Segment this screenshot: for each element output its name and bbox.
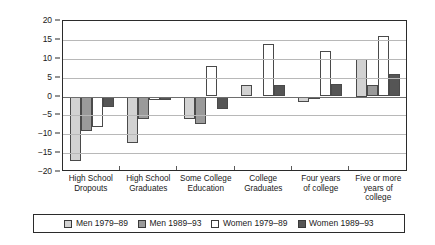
bar-men-1989-93 bbox=[81, 97, 92, 132]
bar-women-1979-89 bbox=[92, 97, 103, 128]
x-axis-category-labels: High School DropoutsHigh School Graduate… bbox=[62, 174, 407, 208]
bar-group bbox=[120, 21, 177, 170]
legend-item-label: Men 1989–93 bbox=[149, 219, 201, 228]
bar-group-bars bbox=[235, 21, 292, 170]
y-axis-tick-mark bbox=[55, 57, 60, 58]
zero-line bbox=[63, 97, 406, 98]
x-axis-category-label: Four years of college bbox=[292, 174, 350, 208]
bar-men-1979-89 bbox=[127, 97, 138, 143]
bar-men-1989-93 bbox=[367, 85, 378, 96]
bar-group bbox=[292, 21, 349, 170]
gridline bbox=[63, 59, 406, 60]
y-axis-tick-label: 0 bbox=[47, 91, 52, 100]
bar-groups bbox=[63, 21, 406, 170]
y-axis-tick-mark bbox=[55, 171, 60, 172]
y-axis-tick-label: −15 bbox=[38, 148, 52, 157]
y-axis-tick-mark bbox=[55, 114, 60, 115]
bar-group bbox=[63, 21, 120, 170]
bar-group-bars bbox=[177, 21, 234, 170]
bar-women-1979-89 bbox=[378, 36, 389, 96]
y-axis-tick-mark bbox=[55, 133, 60, 134]
y-axis-tick-label: 20 bbox=[43, 16, 52, 25]
bar-group bbox=[177, 21, 234, 170]
men-1989-93-swatch bbox=[138, 220, 146, 228]
x-axis-category-label: High School Dropouts bbox=[62, 174, 120, 208]
y-axis-tick-mark bbox=[55, 38, 60, 39]
y-axis-tick-mark bbox=[55, 20, 60, 21]
bar-women-1979-89 bbox=[206, 66, 217, 96]
legend-item[interactable]: Women 1989–93 bbox=[298, 219, 374, 228]
y-axis-tick-label: 5 bbox=[47, 72, 52, 81]
gridline bbox=[63, 134, 406, 135]
bar-men-1979-89 bbox=[70, 97, 81, 162]
bar-group-bars bbox=[349, 21, 406, 170]
x-axis-category-label: Five or more years of college bbox=[350, 174, 408, 208]
y-axis: 20151050−5−10−15−20 bbox=[0, 20, 62, 171]
chart-legend: Men 1979–89Men 1989–93Women 1979–89Women… bbox=[33, 214, 405, 233]
gridline bbox=[63, 153, 406, 154]
women-1979-89-swatch bbox=[211, 220, 219, 228]
bar-women-1989-93 bbox=[331, 84, 342, 96]
bar-group-bars bbox=[292, 21, 349, 170]
legend-item[interactable]: Men 1979–89 bbox=[64, 219, 128, 228]
legend-item-label: Women 1989–93 bbox=[309, 219, 374, 228]
x-axis-category-label: High School Graduates bbox=[120, 174, 178, 208]
y-axis-tick-label: −5 bbox=[43, 110, 53, 119]
bar-group-bars bbox=[63, 21, 120, 170]
x-axis-category-label: College Graduates bbox=[235, 174, 293, 208]
bar-men-1989-93 bbox=[195, 97, 206, 125]
bar-women-1989-93 bbox=[103, 97, 114, 108]
men-1979-89-swatch bbox=[64, 220, 72, 228]
bar-group bbox=[235, 21, 292, 170]
y-axis-tick-label: 15 bbox=[43, 35, 52, 44]
x-axis-category-label: Some College Education bbox=[177, 174, 235, 208]
bar-group bbox=[349, 21, 406, 170]
y-axis-tick-mark bbox=[55, 76, 60, 77]
y-axis-tick-mark bbox=[55, 95, 60, 96]
legend-item-label: Women 1979–89 bbox=[223, 219, 288, 228]
gridline bbox=[63, 40, 406, 41]
women-1989-93-swatch bbox=[298, 220, 306, 228]
bar-women-1979-89 bbox=[263, 44, 274, 97]
y-axis-tick-label: −20 bbox=[38, 167, 52, 176]
plot-area bbox=[62, 20, 407, 171]
bar-men-1979-89 bbox=[241, 85, 252, 96]
legend-item[interactable]: Women 1979–89 bbox=[211, 219, 287, 228]
gridline bbox=[63, 115, 406, 116]
legend-item-label: Men 1979–89 bbox=[76, 219, 128, 228]
y-axis-tick-label: −10 bbox=[38, 129, 52, 138]
gridline bbox=[63, 78, 406, 79]
legend-item[interactable]: Men 1989–93 bbox=[138, 219, 202, 228]
bar-group-bars bbox=[120, 21, 177, 170]
bar-women-1989-93 bbox=[274, 85, 285, 96]
y-axis-tick-mark bbox=[55, 152, 60, 153]
chart-figure: 20151050−5−10−15−20 High School Dropouts… bbox=[0, 0, 435, 245]
y-axis-tick-label: 10 bbox=[43, 54, 52, 63]
bar-women-1989-93 bbox=[217, 97, 228, 109]
